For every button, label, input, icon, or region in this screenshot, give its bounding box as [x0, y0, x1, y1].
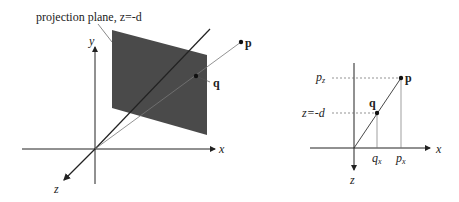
figure-canvas: projection plane, z=-d y x z p q pz z=-d…: [0, 0, 459, 202]
qx-label: qx: [372, 151, 382, 166]
right-2d-diagram: pz z=-d p q qx px x z: [301, 63, 442, 187]
y-axis-label: y: [88, 34, 95, 48]
z-axis: [64, 149, 95, 180]
px-label: px: [395, 151, 406, 166]
pz-label: pz: [315, 70, 326, 85]
right-p-label: p: [405, 71, 412, 85]
right-z-axis-label: z: [349, 173, 355, 187]
q-label: q: [213, 76, 220, 90]
right-q-label: q: [369, 96, 376, 110]
x-axis-label: x: [218, 142, 225, 156]
right-point-q: [375, 111, 379, 115]
p-label: p: [245, 36, 252, 50]
z-axis-label: z: [53, 182, 59, 196]
right-point-p: [399, 76, 403, 80]
left-3d-diagram: projection plane, z=-d y x z p q: [22, 10, 252, 196]
perspective-projection-figure: projection plane, z=-d y x z p q pz z=-d…: [0, 0, 459, 202]
plane-label: projection plane, z=-d: [36, 10, 142, 24]
right-x-axis-label: x: [435, 142, 442, 156]
point-q: [194, 74, 198, 78]
zd-label: z=-d: [301, 106, 326, 120]
plane-leader: [98, 24, 112, 42]
point-p: [239, 40, 243, 44]
